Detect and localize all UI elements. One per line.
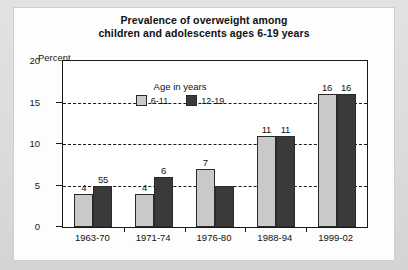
legend-label: 12-19 — [201, 96, 224, 106]
chart-card: Prevalence of overweight among children … — [14, 8, 394, 260]
y-tick-label: 15 — [16, 96, 40, 107]
bar-value-label: 4 — [81, 182, 86, 193]
legend-title: Age in years — [85, 81, 275, 92]
bar-12-19-1971-74: 6 — [154, 177, 173, 227]
legend-label: 6-11 — [151, 96, 168, 106]
bar-12-19-1999-02: 16 — [337, 94, 356, 227]
legend: Age in years 6-1112-19 — [85, 81, 275, 106]
legend-item-6-11: 6-11 — [136, 95, 168, 106]
x-axis-label: 1976-80 — [182, 232, 246, 243]
x-axis-label: 1963-70 — [60, 232, 124, 243]
bar-group: 1616 — [306, 61, 367, 227]
bar-value-label: 55 — [98, 174, 108, 185]
x-axis-label: 1971-74 — [121, 232, 185, 243]
legend-swatch-icon — [136, 95, 147, 106]
bar-value-label: 4 — [142, 182, 147, 193]
x-axis-label: 1999-02 — [304, 232, 368, 243]
bar-6-11-1976-80: 7 — [196, 169, 215, 227]
y-tick-label: 10 — [16, 138, 40, 149]
bar-value-label: 16 — [322, 82, 332, 93]
y-tick-label: 0 — [16, 221, 40, 232]
bar-6-11-1963-70: 4 — [74, 194, 93, 227]
bar-value-label: 11 — [281, 124, 290, 135]
y-tick-label: 20 — [16, 55, 40, 66]
bar-6-11-1988-94: 11 — [257, 136, 276, 227]
x-axis-label: 1988-94 — [243, 232, 307, 243]
chart-title-line-2: children and adolescents ages 6-19 years — [14, 27, 394, 40]
legend-item-12-19: 12-19 — [186, 95, 224, 106]
legend-swatch-icon — [186, 95, 197, 106]
plot-area: 45546711111616 Age in years 6-1112-19 — [62, 60, 368, 228]
bar-12-19-1976-80 — [215, 186, 234, 228]
bar-value-label: 7 — [203, 157, 208, 168]
bar-value-label: 11 — [262, 124, 271, 135]
bar-6-11-1971-74: 4 — [135, 194, 154, 227]
bar-12-19-1963-70: 55 — [93, 186, 112, 228]
bar-value-label: 16 — [341, 82, 351, 93]
legend-items: 6-1112-19 — [85, 95, 275, 106]
bar-6-11-1999-02: 16 — [318, 94, 337, 227]
bar-value-label: 6 — [161, 165, 166, 176]
image-background: Prevalence of overweight among children … — [0, 0, 408, 270]
bar-12-19-1988-94: 11 — [276, 136, 295, 227]
chart-title: Prevalence of overweight among children … — [14, 14, 394, 40]
chart-title-line-1: Prevalence of overweight among — [14, 14, 394, 27]
y-tick-label: 5 — [16, 179, 40, 190]
